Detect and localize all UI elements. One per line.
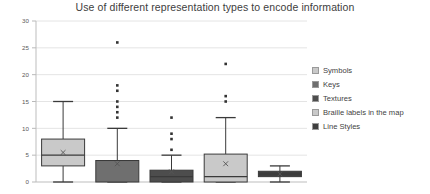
outlier-point xyxy=(116,89,119,92)
legend-swatch-icon xyxy=(312,109,319,116)
outlier-point xyxy=(224,100,227,103)
outlier-point xyxy=(170,138,173,141)
legend-item-label: Line Styles xyxy=(323,122,360,131)
outlier-point xyxy=(116,84,119,87)
outlier-point xyxy=(116,111,119,114)
outlier-point xyxy=(116,116,119,119)
legend-swatch-icon xyxy=(312,95,319,102)
y-tick-label: 20 xyxy=(22,71,29,78)
legend-item-symbols[interactable]: Symbols xyxy=(312,66,404,75)
outlier-point xyxy=(224,95,227,98)
box-plot-symbols xyxy=(42,102,85,183)
outlier-point xyxy=(170,132,173,135)
y-axis-tick-labels: 051015202530 xyxy=(22,17,36,185)
legend-item-keys[interactable]: Keys xyxy=(312,80,404,89)
outlier-point xyxy=(116,106,119,109)
y-tick-label: 15 xyxy=(22,98,29,105)
outlier-point xyxy=(170,149,173,152)
box-plot-braille-labels-in-the-map xyxy=(204,63,247,182)
legend-item-label: Keys xyxy=(323,80,340,89)
legend-item-textures[interactable]: Textures xyxy=(312,94,404,103)
legend-item-label: Textures xyxy=(323,94,352,103)
outlier-point xyxy=(116,100,119,103)
box-plot-keys xyxy=(96,41,139,182)
y-tick-label: 5 xyxy=(26,151,30,158)
y-tick-label: 0 xyxy=(26,178,30,185)
legend-item-braille-labels-in-the-map[interactable]: Braille labels in the map xyxy=(312,108,404,117)
outlier-point xyxy=(116,41,119,44)
legend-swatch-icon xyxy=(312,123,319,130)
box-iqr xyxy=(204,154,247,182)
box-plot-line-styles xyxy=(258,166,301,182)
y-tick-label: 30 xyxy=(22,17,29,24)
legend-item-label: Braille labels in the map xyxy=(323,108,404,117)
box-plot-chart: Use of different representation types to… xyxy=(0,0,430,194)
legend-item-line-styles[interactable]: Line Styles xyxy=(312,122,404,131)
legend: Symbols Keys Textures Braille labels in … xyxy=(312,66,404,131)
box-plot-textures xyxy=(150,116,193,182)
y-tick-label: 10 xyxy=(22,125,29,132)
box-series-group xyxy=(42,41,302,182)
legend-swatch-icon xyxy=(312,67,319,74)
legend-swatch-icon xyxy=(312,81,319,88)
legend-item-label: Symbols xyxy=(323,66,352,75)
y-tick-label: 25 xyxy=(22,44,29,51)
outlier-point xyxy=(170,116,173,119)
outlier-point xyxy=(224,63,227,66)
